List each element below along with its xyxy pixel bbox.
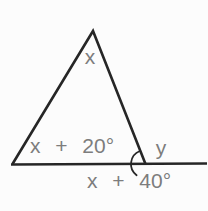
below-line-angle-label: x + 40° [80, 170, 178, 191]
geometry-diagram: x x + 20° y x + 40° [0, 0, 208, 211]
exterior-angle-label: y [150, 137, 172, 158]
base-line [11, 164, 207, 165]
base-left-angle-label: x + 20° [26, 135, 118, 156]
apex-angle-label: x [79, 46, 101, 67]
